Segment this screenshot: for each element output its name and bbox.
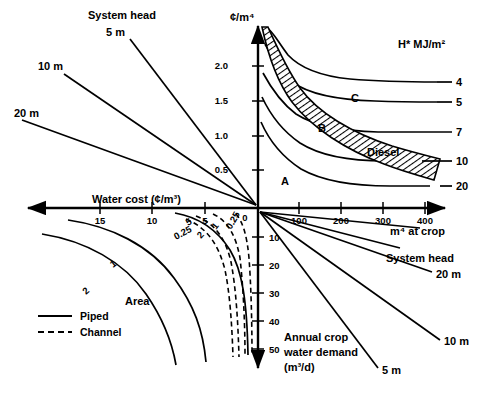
curve-h4 bbox=[267, 28, 437, 82]
region-label-c: C bbox=[351, 92, 359, 104]
h-star-legend-title: H* MJ/m² bbox=[398, 38, 445, 50]
piped-label-2: 2 bbox=[80, 285, 91, 297]
legend-label-channel: Channel bbox=[80, 326, 122, 338]
area-label: Area bbox=[125, 295, 150, 307]
head-label-20m-upper: 20 m bbox=[14, 107, 39, 119]
tick-label-x-300: 300 bbox=[375, 215, 391, 226]
x-axis-title-right: m⁴ at crop bbox=[390, 225, 445, 237]
x-axis-title-left: Water cost (¢/m³) bbox=[92, 193, 181, 205]
legend-samples bbox=[38, 316, 72, 332]
channel-label-0-25: 0.25 bbox=[223, 209, 242, 231]
piped-curve-2 bbox=[42, 234, 176, 365]
head-label-20m-lower: 20 m bbox=[436, 268, 461, 280]
area-curves-piped bbox=[42, 213, 248, 365]
curve-label-5: 5 bbox=[456, 96, 462, 108]
head-label-10m-lower: 10 m bbox=[444, 335, 469, 347]
tick-label-yl-20: 20 bbox=[269, 260, 280, 271]
curve-label-4: 4 bbox=[456, 76, 463, 88]
tick-label-yl-50: 50 bbox=[269, 344, 280, 355]
curve-label-20: 20 bbox=[456, 180, 468, 192]
tick-label-y-2-0: 2.0 bbox=[215, 60, 228, 71]
curve-label-7: 7 bbox=[456, 126, 462, 138]
tick-label-x-400: 400 bbox=[417, 215, 433, 226]
curve-label-10: 10 bbox=[456, 155, 468, 167]
channel-curve-5 bbox=[186, 219, 233, 357]
tick-label-x-200: 200 bbox=[333, 215, 349, 226]
tick-label-y-1-0: 1.0 bbox=[215, 130, 228, 141]
tick-label-y-1-5: 1.5 bbox=[215, 95, 229, 106]
region-label-diesel: Diesel bbox=[367, 146, 399, 158]
tick-label-x-10: 10 bbox=[147, 215, 158, 226]
head-label-5m-lower: 5 m bbox=[382, 364, 401, 376]
head-line-5m-upper bbox=[130, 39, 256, 205]
region-label-b: B bbox=[318, 122, 326, 134]
tick-label-x-15: 15 bbox=[95, 215, 106, 226]
system-head-title-upper: System head bbox=[88, 9, 156, 21]
tick-label-x-5: 5 bbox=[202, 215, 208, 226]
tick-label-y-0-5: 0.5 bbox=[215, 164, 229, 175]
head-label-5m-upper: 5 m bbox=[106, 26, 125, 38]
tick-label-yl-30: 30 bbox=[269, 288, 280, 299]
head-label-10m-upper: 10 m bbox=[38, 60, 63, 72]
nomograph-svg: System head 5 m 10 m 20 m ¢/m⁴ m⁴ at cro… bbox=[0, 0, 502, 400]
demand-axis-title-line1: Annual crop bbox=[284, 331, 348, 343]
region-label-a: A bbox=[281, 175, 289, 187]
y-axis-title-upper: ¢/m⁴ bbox=[230, 11, 254, 23]
tick-label-x-100: 100 bbox=[291, 215, 307, 226]
tick-label-x-0: 0 bbox=[242, 212, 247, 223]
figure-root: System head 5 m 10 m 20 m ¢/m⁴ m⁴ at cro… bbox=[0, 0, 502, 400]
system-head-title-lower: System head bbox=[386, 252, 454, 264]
legend-label-piped: Piped bbox=[80, 310, 109, 322]
demand-axis-title-line3: (m³/d) bbox=[284, 361, 315, 373]
tick-label-yl-40: 40 bbox=[269, 316, 280, 327]
demand-axis-title-line2: water demand bbox=[283, 346, 358, 358]
tick-label-yl-10: 10 bbox=[269, 232, 280, 243]
